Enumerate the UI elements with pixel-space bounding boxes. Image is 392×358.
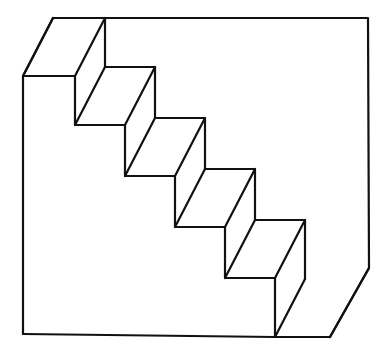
schroeder-staircase-drawing [0,0,392,358]
illusion-figure-canvas [0,0,392,358]
